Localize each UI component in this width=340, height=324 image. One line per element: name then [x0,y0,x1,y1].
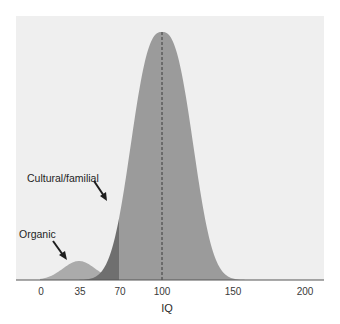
iq-distribution-chart: 0 35 70 100 150 200 IQ Cultural/familial… [0,0,340,324]
x-tick-70: 70 [114,286,126,297]
organic-label: Organic [19,228,56,240]
cultural-familial-label: Cultural/familial [27,172,99,184]
x-axis-title: IQ [161,302,173,314]
x-tick-100: 100 [154,286,171,297]
x-tick-150: 150 [225,286,242,297]
x-tick-labels: 0 35 70 100 150 200 [38,286,314,297]
x-tick-35: 35 [74,286,86,297]
x-tick-0: 0 [38,286,44,297]
x-tick-200: 200 [297,286,314,297]
